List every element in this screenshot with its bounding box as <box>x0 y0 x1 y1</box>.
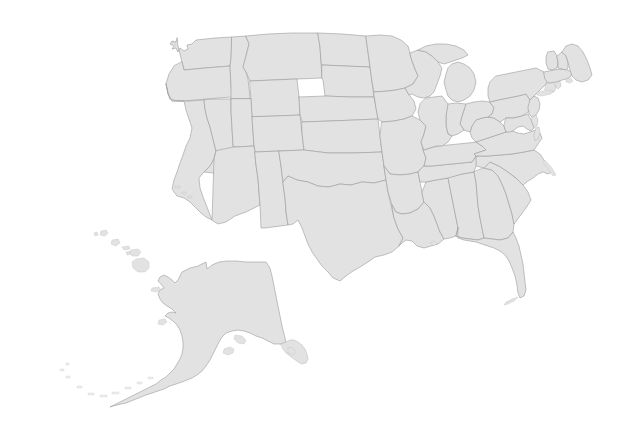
alaska-aleutian-island-2 <box>137 382 142 384</box>
island-channel-islands-b <box>182 192 186 194</box>
alaska-aleutian-island-10 <box>66 363 69 365</box>
alaska-aleutian-island-5 <box>100 395 107 397</box>
state-south-dakota[interactable] <box>322 65 374 97</box>
hawaii-island-niihau <box>94 232 98 236</box>
state-kansas[interactable] <box>302 119 382 153</box>
state-nebraska[interactable] <box>299 96 378 122</box>
alaska-aleutian-island-8 <box>66 376 70 378</box>
state-utah[interactable] <box>231 99 254 147</box>
alaska-aleutian-island-3 <box>125 387 131 389</box>
alaska-aleutian-island-4 <box>112 392 119 394</box>
alaska-aleutian-island-6 <box>88 393 94 395</box>
island-channel-islands-c <box>188 196 192 198</box>
map-canvas <box>0 0 641 443</box>
state-missouri[interactable] <box>380 116 426 175</box>
state-wyoming[interactable] <box>250 79 300 117</box>
island-channel-islands-a <box>175 186 180 188</box>
alaska-aleutian-island-1 <box>148 377 153 379</box>
united-states-map[interactable] <box>0 0 641 443</box>
state-colorado[interactable] <box>252 115 304 152</box>
state-montana[interactable] <box>243 33 322 81</box>
island-puget-sound <box>172 42 176 46</box>
alaska-aleutian-island-7 <box>77 386 82 388</box>
state-north-dakota[interactable] <box>318 33 370 67</box>
alaska-aleutian-island-9 <box>60 369 64 371</box>
